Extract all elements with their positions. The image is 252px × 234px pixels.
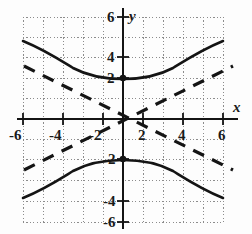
x-tick-label-6: 6 bbox=[218, 128, 226, 143]
hyperbola-graph-figure: -6 -4 -2 2 4 6 6 4 2 -2 -4 -6 y x bbox=[0, 0, 252, 234]
x-tick-label-4: 4 bbox=[178, 128, 186, 143]
vertex-point-upper bbox=[120, 75, 127, 82]
graph-canvas bbox=[0, 0, 252, 234]
y-tick-label-neg6: -6 bbox=[103, 215, 116, 230]
y-tick-label-4: 4 bbox=[107, 50, 115, 65]
y-tick-label-neg4: -4 bbox=[103, 194, 116, 209]
y-tick-label-6: 6 bbox=[107, 10, 115, 25]
x-tick-label-neg2: -2 bbox=[89, 128, 102, 143]
y-tick-label-2: 2 bbox=[107, 71, 115, 86]
x-tick-label-neg4: -4 bbox=[49, 128, 62, 143]
vertex-point-lower bbox=[120, 156, 127, 163]
x-axis-label: x bbox=[233, 100, 241, 115]
y-tick-label-neg2: -2 bbox=[103, 152, 116, 167]
x-tick-label-2: 2 bbox=[138, 128, 146, 143]
x-tick-label-neg6: -6 bbox=[9, 128, 22, 143]
y-axis-label: y bbox=[129, 9, 136, 24]
